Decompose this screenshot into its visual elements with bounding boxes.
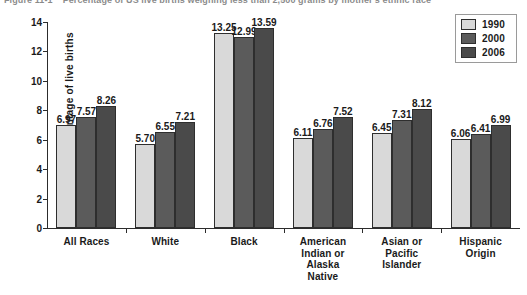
x-category-label-line: Black [205,236,284,248]
bar-value-label: 7.21 [176,111,195,122]
y-tick-label: 10 [31,75,42,86]
y-tick-mark [43,228,47,229]
x-tick-mark [441,228,442,233]
y-tick-label: 0 [36,223,42,234]
figure-container: Figure 11-1Percentage of US live births … [0,0,527,295]
bar-value-label: 6.99 [491,114,510,125]
bar-value-label: 6.97 [57,114,76,125]
y-tick-label: 6 [36,134,42,145]
bar-value-label: 7.52 [333,106,352,117]
x-category-label-line: Hispanic [441,236,520,248]
bar-value-label: 6.41 [471,123,490,134]
plot-area: Percentage of live births 02468101214 6.… [47,22,520,228]
x-category-label-line: Alaska [284,259,363,271]
bar[interactable]: 5.70 [135,144,155,228]
bar[interactable]: 7.31 [392,120,412,228]
bar-group: 6.116.767.52 [284,22,363,228]
bar[interactable]: 7.21 [175,122,195,228]
y-tick-label: 14 [31,17,42,28]
bar[interactable]: 6.06 [451,139,471,228]
bar-value-label: 5.70 [136,133,155,144]
bar[interactable]: 8.12 [412,109,432,228]
x-category-label: White [126,236,205,248]
x-category-label-line: Native [284,271,363,283]
bar[interactable]: 6.11 [293,138,313,228]
legend-label: 2006 [482,47,505,58]
legend-label: 1990 [482,19,505,30]
bar[interactable]: 6.99 [491,125,511,228]
bar-group: 6.977.578.26 [47,22,126,228]
x-category-label-line: Islander [362,259,441,271]
x-tick-mark [362,228,363,233]
bar-group: 5.706.557.21 [126,22,205,228]
bar-group: 13.2512.9913.59 [205,22,284,228]
bar[interactable]: 6.97 [56,125,76,228]
bar-value-label: 7.31 [392,109,411,120]
figure-title: Figure 11-1Percentage of US live births … [4,0,524,5]
x-category-label: All Races [47,236,126,248]
y-tick-label: 4 [36,164,42,175]
bar-value-label: 6.55 [156,121,175,132]
y-tick-label: 12 [31,46,42,57]
x-category-label: HispanicOrigin [441,236,520,259]
bar[interactable]: 7.57 [76,117,96,228]
bar[interactable]: 6.55 [155,132,175,228]
y-tick-label: 8 [36,105,42,116]
bar[interactable]: 6.41 [471,134,491,228]
x-category-label: Black [205,236,284,248]
x-tick-mark [126,228,127,233]
legend-swatch [461,33,476,44]
y-tick-label: 2 [36,193,42,204]
x-category-label-line: All Races [47,236,126,248]
figure-number: Figure 11-1 [4,0,53,5]
bar[interactable]: 6.76 [313,129,333,228]
bar-value-label: 13.59 [252,17,277,28]
x-category-label-line: Pacific [362,248,441,260]
legend-item[interactable]: 1990 [461,19,511,30]
bar[interactable]: 12.99 [234,37,254,228]
bar-value-label: 6.11 [293,127,312,138]
bar-value-label: 6.76 [313,118,332,129]
bar-value-label: 6.06 [451,128,470,139]
chart-legend: 199020002006 [455,14,517,63]
x-category-label-line: American [284,236,363,248]
bar-value-label: 8.12 [412,98,431,109]
x-category-label-line: Origin [441,248,520,260]
figure-caption-text: Percentage of US live births weighing le… [63,0,432,5]
x-category-label: Asian orPacificIslander [362,236,441,271]
x-tick-mark [284,228,285,233]
legend-swatch [461,47,476,58]
x-category-label-line: Indian or [284,248,363,260]
bar[interactable]: 6.45 [372,133,392,228]
x-tick-mark [205,228,206,233]
bar-value-label: 8.26 [97,95,116,106]
legend-swatch [461,19,476,30]
x-category-label-line: White [126,236,205,248]
bar[interactable]: 13.25 [214,33,234,228]
bar-group: 6.457.318.12 [362,22,441,228]
bar[interactable]: 8.26 [96,106,116,228]
bar[interactable]: 7.52 [333,117,353,228]
bar-value-label: 7.57 [77,106,96,117]
x-category-label: AmericanIndian orAlaskaNative [284,236,363,282]
bar-value-label: 6.45 [372,122,391,133]
legend-label: 2000 [482,33,505,44]
legend-item[interactable]: 2000 [461,33,511,44]
bar[interactable]: 13.59 [254,28,274,228]
legend-item[interactable]: 2006 [461,47,511,58]
x-category-label-line: Asian or [362,236,441,248]
